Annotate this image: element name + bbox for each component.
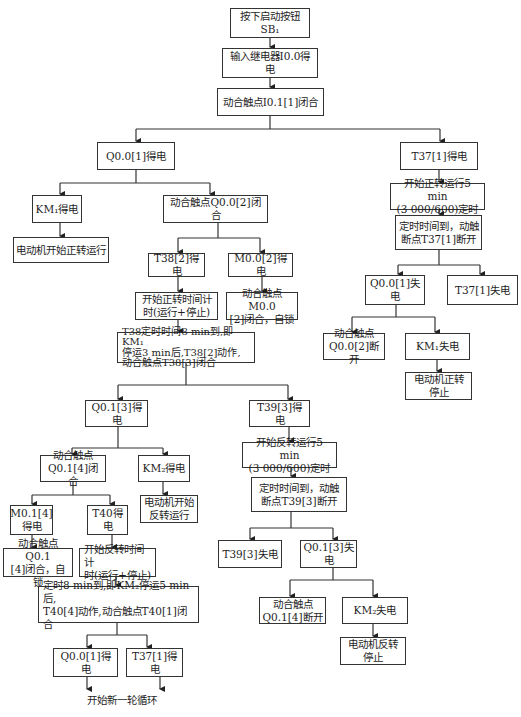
step-motor-forward-stop: 电动机正转 停止 — [405, 372, 472, 400]
step-m00-2-energized: M0.0[2]得电 — [228, 253, 293, 277]
step-motor-reverse-start: 电动机开始 反转运行 — [140, 495, 198, 523]
step-contact-q00-2-open: 动合触点 Q0.0[2]断开 — [323, 333, 385, 360]
step-t40-timeout: 定时8 min到,即KM₂停运5 min后, T40[4]动作,动合触点T40[… — [38, 586, 199, 623]
step-t37-1-energized-restart: T37[1]得电 — [126, 648, 183, 677]
end-label-new-cycle: 开始新一轮循环 — [82, 692, 162, 707]
step-motor-reverse-stop: 电动机反转 停止 — [340, 637, 406, 665]
step-q00-1-energized-restart: Q0.0[1]得电 — [53, 648, 118, 677]
step-motor-forward-start: 电动机开始正转运行 — [13, 237, 109, 263]
step-t37-1-deenergized: T37[1]失电 — [447, 275, 518, 305]
flowchart-canvas: 按下启动按钮SB₁ 输入继电器I0.0得电 动合触点I0.1[1]闭合 Q0.0… — [0, 0, 521, 717]
step-input-relay-i00-energized: 输入继电器I0.0得电 — [222, 48, 318, 78]
step-t39-3-energized: T39[3]得电 — [249, 400, 310, 427]
step-contact-q00-2-closed: 动合触点Q0.0[2]闭合 — [163, 195, 268, 223]
step-forward-timing: 开始正转时间计 时(运行+停止) — [135, 292, 218, 320]
step-m00-self-lock: 动合触点M0.0 [2]闭合，自锁 — [226, 292, 298, 320]
step-forward-run-5min-timer: 开始正转运行5 min (3 000/600)定时 — [390, 183, 485, 210]
step-km2-energized: KM₂得电 — [138, 455, 190, 482]
step-q00-1-deenergized: Q0.0[1]失电 — [365, 275, 425, 305]
step-t38-2-energized: T38[2]得电 — [148, 253, 205, 277]
step-t40-energized: T40得电 — [87, 505, 128, 535]
step-km1-deenergized: KM₁失电 — [405, 333, 470, 360]
step-q00-1-energized: Q0.0[1]得电 — [97, 142, 175, 170]
step-m01-4-energized: M0.1[4] 得电 — [10, 505, 53, 535]
step-t38-timeout: T38定时时间8 min到,即KM₁ 停运3 min后,T38[2]动作, 动合… — [117, 332, 255, 363]
step-q01-3-energized: Q0.1[3]得电 — [85, 400, 148, 427]
step-t39-contact-open: 定时时间到，动触 断点T39[3]断开 — [251, 477, 347, 512]
step-q01-3-deenergized: Q0.1[3]失电 — [300, 540, 357, 568]
step-reverse-timing: 开始反转时间计 时(运行+停止) — [79, 548, 156, 577]
step-t39-3-deenergized: T39[3]失电 — [218, 540, 282, 568]
step-press-start-button: 按下启动按钮SB₁ — [230, 8, 310, 38]
step-km1-energized: KM₁得电 — [32, 195, 82, 223]
step-q01-self-lock: 动合触点Q0.1 [4]闭合，自锁 — [3, 548, 73, 577]
step-km2-deenergized: KM₂失电 — [342, 597, 408, 624]
step-contact-q01-4-closed: 动合触点 Q0.1[4]闭合 — [40, 455, 106, 482]
step-t37-contact-open: 定时时间到，动触 断点T37[1]断开 — [395, 215, 482, 250]
step-t37-1-energized: T37[1]得电 — [400, 142, 478, 170]
step-contact-q01-4-open: 动合触点 Q0.1[4]断开 — [259, 597, 326, 624]
step-contact-i01-closed: 动合触点I0.1[1]闭合 — [217, 88, 324, 116]
step-reverse-run-5min-timer: 开始反转运行5 min (3 000/600)定时 — [242, 442, 337, 468]
